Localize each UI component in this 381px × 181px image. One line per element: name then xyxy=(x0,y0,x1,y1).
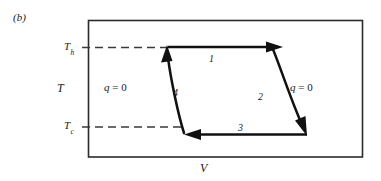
panel-label: (b) xyxy=(13,12,26,23)
cold-temperature-subscript: c xyxy=(70,127,73,136)
q-equals-zero-left: = 0 xyxy=(110,81,127,93)
step-2-arrowhead xyxy=(295,116,307,136)
q-zero-label-right: q = 0 xyxy=(290,82,313,93)
carnot-cycle-tv-figure: (b) T V Th Tc q = 0 q = 0 1 2 3 4 xyxy=(0,0,381,181)
step-3-arrowhead xyxy=(184,129,201,140)
q-zero-label-left: q = 0 xyxy=(104,82,127,93)
x-axis-label: V xyxy=(200,162,207,174)
step-1-label: 1 xyxy=(209,54,214,64)
step-4-label: 4 xyxy=(173,88,178,98)
y-axis-label: T xyxy=(57,82,64,94)
hot-temperature-label: Th xyxy=(64,41,74,55)
hot-temperature-subscript: h xyxy=(70,48,74,57)
step-3-label: 3 xyxy=(238,123,243,133)
step-2-label: 2 xyxy=(258,92,263,102)
cold-temperature-label: Tc xyxy=(64,120,73,134)
plot-frame xyxy=(89,21,363,158)
q-equals-zero-right: = 0 xyxy=(296,81,313,93)
